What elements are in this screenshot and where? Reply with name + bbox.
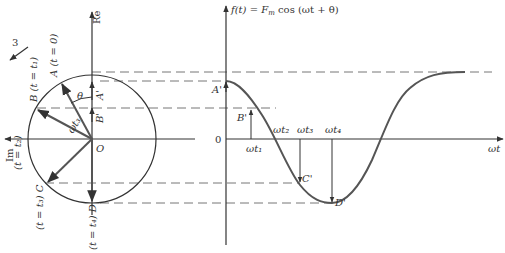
a-prime-phasor-label: A'	[94, 90, 105, 101]
projection-lines	[37, 72, 492, 203]
point-c-label: (t = t₃) C	[34, 184, 45, 230]
b-prime-label: B'	[236, 112, 247, 123]
re-label: Re	[91, 10, 102, 24]
x-axis-title: ωt	[488, 143, 501, 154]
rotation-arrow-icon	[10, 47, 28, 60]
c-prime-label: C'	[302, 173, 312, 184]
phasor-sinusoid-diagram: 3 Re Im O A (t = 0) B (t = t₁) (t = t₂) …	[0, 0, 505, 253]
tick-wt3: ωt₃	[297, 124, 313, 135]
tick-wt4: ωt₄	[325, 124, 341, 135]
zero-label: 0	[215, 134, 221, 145]
theta-label: θ	[77, 90, 83, 101]
y-axis-title: f(t) = Fm cos (ωt + θ)	[230, 4, 339, 17]
point-a-label: A (t = 0)	[48, 34, 59, 78]
rotation-label: 3	[12, 37, 18, 48]
phasor-c	[48, 139, 92, 182]
tick-wt1: ωt₁	[246, 143, 262, 154]
point-d-label: (t = t₄) D	[87, 204, 98, 250]
tick-wt2: ωt₂	[273, 124, 289, 135]
b-prime-phasor-label: B'	[94, 113, 105, 124]
d-prime-label: D'	[334, 197, 346, 208]
origin-label: O	[96, 143, 104, 154]
point-t2-label: (t = t₂)	[12, 135, 23, 170]
a-prime-label: A'	[211, 84, 222, 95]
point-b-label: B (t = t₁)	[28, 57, 39, 103]
